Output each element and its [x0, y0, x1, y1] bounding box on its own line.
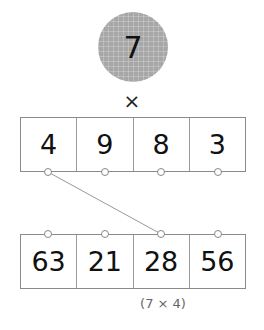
bottom-dot[interactable]	[44, 230, 52, 238]
bottom-dot[interactable]	[214, 230, 222, 238]
connector-line	[0, 0, 264, 330]
hint-note: (7 × 4)	[0, 296, 264, 311]
top-dot[interactable]	[101, 168, 109, 176]
top-dot[interactable]	[214, 168, 222, 176]
bottom-dot[interactable]	[101, 230, 109, 238]
top-dot[interactable]	[44, 168, 52, 176]
top-dot[interactable]	[157, 168, 165, 176]
bottom-dot[interactable]	[157, 230, 165, 238]
